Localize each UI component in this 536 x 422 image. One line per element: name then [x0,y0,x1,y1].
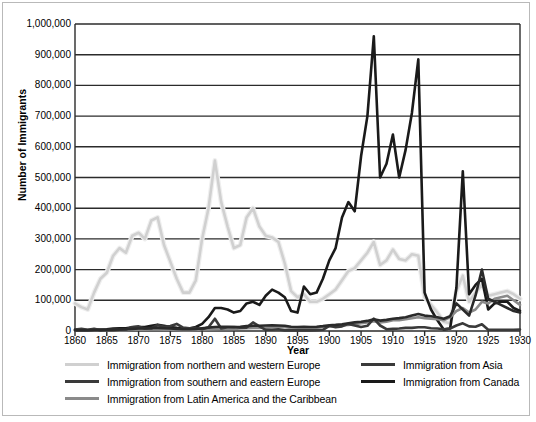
legend-item[interactable]: Immigration from southern and eastern Eu… [65,374,337,389]
chart-frame: 0100,000200,000300,000400,000500,000600,… [2,2,530,416]
legend-color-swatch [65,363,99,366]
legend-item-label: Immigration from Canada [403,376,519,388]
legend-column-left: Immigration from northern and western Eu… [65,357,337,408]
x-axis-tick-labels: 1860186518701875188018851890189519001905… [3,3,531,355]
legend-color-swatch [361,380,395,383]
legend-item-label: Immigration from Asia [403,359,502,371]
chart-legend: Immigration from northern and western Eu… [3,355,531,415]
legend-color-swatch [361,363,395,366]
legend-item-label: Immigration from southern and eastern Eu… [107,376,320,388]
legend-color-swatch [65,380,99,383]
legend-item-label: Immigration from Latin America and the C… [107,393,337,405]
y-axis-title: Number of Immigrants [16,50,28,240]
legend-item[interactable]: Immigration from Latin America and the C… [65,391,337,406]
legend-item[interactable]: Immigration from Canada [361,374,519,389]
chart-plot-container: 0100,000200,000300,000400,000500,000600,… [3,3,531,355]
legend-item[interactable]: Immigration from northern and western Eu… [65,357,337,372]
legend-item-label: Immigration from northern and western Eu… [107,359,320,371]
legend-item[interactable]: Immigration from Asia [361,357,519,372]
legend-color-swatch [65,397,99,400]
legend-column-right: Immigration from AsiaImmigration from Ca… [361,357,519,391]
